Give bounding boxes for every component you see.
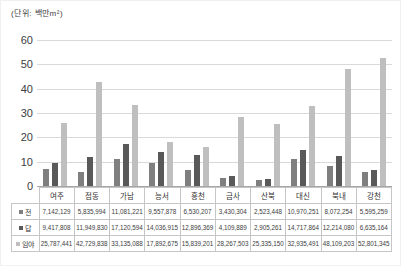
cell-전-점동: 5,835,994 bbox=[74, 204, 109, 220]
bar-group-금사 bbox=[215, 117, 251, 186]
table-row-전: 전7,142,1295,835,99411,081,2219,557,8786,… bbox=[12, 204, 392, 220]
bar-group-여주 bbox=[37, 123, 73, 186]
column-header-금사: 금사 bbox=[215, 188, 250, 204]
bar-임야-금사 bbox=[238, 117, 244, 186]
bar-전-금사 bbox=[220, 178, 226, 186]
row-header-전: 전 bbox=[12, 204, 40, 220]
cell-답-금사: 4,109,889 bbox=[215, 220, 250, 236]
y-axis-tick-20: 20 bbox=[7, 131, 33, 143]
bar-답-북내 bbox=[336, 156, 342, 186]
table-row-임야: 임야25,787,44142,729,83833,135,08817,892,6… bbox=[12, 236, 392, 252]
bar-group-능서 bbox=[144, 142, 180, 186]
column-header-점동: 점동 bbox=[74, 188, 109, 204]
cell-전-금사: 3,430,304 bbox=[215, 204, 250, 220]
cell-임야-점동: 42,729,838 bbox=[74, 236, 109, 252]
bar-답-산북 bbox=[265, 179, 271, 186]
cell-답-가남: 17,120,594 bbox=[110, 220, 145, 236]
bar-임야-강천 bbox=[380, 58, 386, 186]
cell-전-강천: 5,595,259 bbox=[356, 204, 391, 220]
bar-답-가남 bbox=[123, 144, 129, 186]
table-row-답: 답9,417,80811,949,83017,120,59414,036,915… bbox=[12, 220, 392, 236]
bar-전-능서 bbox=[149, 163, 155, 186]
cell-전-북내: 8,072,254 bbox=[321, 204, 356, 220]
bar-임야-산북 bbox=[274, 124, 280, 186]
bar-답-점동 bbox=[87, 157, 93, 186]
cell-임야-북내: 48,109,203 bbox=[321, 236, 356, 252]
y-axis-tick-10: 10 bbox=[7, 156, 33, 168]
column-header-흥천: 흥천 bbox=[180, 188, 215, 204]
bar-전-흥천 bbox=[185, 170, 191, 186]
data-table: 여주점동가남능서흥천금사산북대신북내강천 전7,142,1295,835,994… bbox=[11, 187, 392, 252]
bar-전-가남 bbox=[114, 159, 120, 186]
legend-swatch-전 bbox=[19, 210, 23, 214]
bar-답-능서 bbox=[158, 152, 164, 186]
table-header-row: 여주점동가남능서흥천금사산북대신북내강천 bbox=[12, 188, 392, 204]
bar-임야-점동 bbox=[96, 82, 102, 186]
cell-답-능서: 14,036,915 bbox=[145, 220, 180, 236]
y-axis-tick-30: 30 bbox=[7, 107, 33, 119]
cell-답-흥천: 12,896,369 bbox=[180, 220, 215, 236]
cell-임야-가남: 33,135,088 bbox=[110, 236, 145, 252]
legend-swatch-임야 bbox=[16, 242, 20, 246]
y-axis-tick-50: 50 bbox=[7, 58, 33, 70]
cell-답-여주: 9,417,808 bbox=[39, 220, 74, 236]
cell-전-능서: 9,557,878 bbox=[145, 204, 180, 220]
series-label: 전 bbox=[25, 207, 31, 217]
bar-전-강천 bbox=[362, 172, 368, 186]
bar-chart-plot-area bbox=[37, 40, 392, 187]
cell-임야-흥천: 15,839,201 bbox=[180, 236, 215, 252]
bar-group-북내 bbox=[321, 69, 357, 186]
bar-전-북내 bbox=[327, 166, 333, 186]
column-header-능서: 능서 bbox=[145, 188, 180, 204]
column-header-산북: 산북 bbox=[251, 188, 286, 204]
cell-전-가남: 11,081,221 bbox=[110, 204, 145, 220]
cell-답-북내: 12,214,080 bbox=[321, 220, 356, 236]
cell-답-산북: 2,905,261 bbox=[251, 220, 286, 236]
cell-답-점동: 11,949,830 bbox=[74, 220, 109, 236]
bar-전-산북 bbox=[256, 180, 262, 186]
bar-답-강천 bbox=[371, 170, 377, 186]
bar-group-흥천 bbox=[179, 147, 215, 186]
column-header-북내: 북내 bbox=[321, 188, 356, 204]
cell-전-흥천: 6,530,207 bbox=[180, 204, 215, 220]
bar-답-금사 bbox=[229, 176, 235, 186]
cell-임야-능서: 17,892,675 bbox=[145, 236, 180, 252]
cell-전-대신: 10,970,251 bbox=[286, 204, 321, 220]
series-label: 답 bbox=[25, 223, 31, 233]
bar-임야-능서 bbox=[167, 142, 173, 186]
bar-전-대신 bbox=[291, 159, 297, 186]
gridline-60 bbox=[37, 40, 392, 41]
y-axis-tick-60: 60 bbox=[7, 34, 33, 46]
series-label: 임야 bbox=[22, 239, 34, 249]
bar-답-여주 bbox=[52, 163, 58, 186]
cell-답-강천: 6,635,164 bbox=[356, 220, 391, 236]
y-axis-tick-40: 40 bbox=[7, 83, 33, 95]
bar-group-가남 bbox=[108, 105, 144, 186]
bar-임야-북내 bbox=[345, 69, 351, 186]
cell-임야-금사: 28,267,503 bbox=[215, 236, 250, 252]
cell-전-산북: 2,523,448 bbox=[251, 204, 286, 220]
bar-group-산북 bbox=[250, 124, 286, 186]
legend-swatch-답 bbox=[19, 226, 23, 230]
cell-임야-대신: 32,935,491 bbox=[286, 236, 321, 252]
bar-임야-가남 bbox=[132, 105, 138, 186]
bar-전-여주 bbox=[43, 169, 49, 186]
bar-group-강천 bbox=[357, 58, 393, 186]
column-header-가남: 가남 bbox=[110, 188, 145, 204]
gridline-50 bbox=[37, 64, 392, 65]
bar-임야-대신 bbox=[309, 106, 315, 186]
bar-임야-흥천 bbox=[203, 147, 209, 186]
bar-임야-여주 bbox=[61, 123, 67, 186]
bar-group-대신 bbox=[286, 106, 322, 186]
cell-답-대신: 14,717,864 bbox=[286, 220, 321, 236]
row-header-답: 답 bbox=[12, 220, 40, 236]
chart-panel: (단위: 백만m²) 여주점동가남능서흥천금사산북대신북내강천 전7,142,1… bbox=[0, 0, 401, 266]
column-header-대신: 대신 bbox=[286, 188, 321, 204]
unit-label: (단위: 백만m²) bbox=[11, 7, 63, 18]
bar-답-대신 bbox=[300, 150, 306, 186]
column-header-여주: 여주 bbox=[39, 188, 74, 204]
row-header-임야: 임야 bbox=[12, 236, 40, 252]
cell-임야-여주: 25,787,441 bbox=[39, 236, 74, 252]
cell-임야-산북: 25,335,150 bbox=[251, 236, 286, 252]
bar-답-흥천 bbox=[194, 155, 200, 186]
